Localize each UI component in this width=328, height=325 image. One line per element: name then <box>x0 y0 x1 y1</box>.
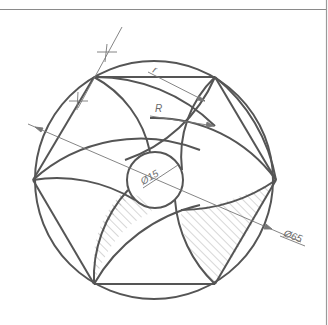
large-radius-label: R <box>155 103 162 114</box>
impeller-drawing: Ø65 Ø15 r R <box>0 0 328 325</box>
outer-diameter-label: Ø65 <box>281 227 304 244</box>
small-radius-label: r <box>151 64 159 76</box>
